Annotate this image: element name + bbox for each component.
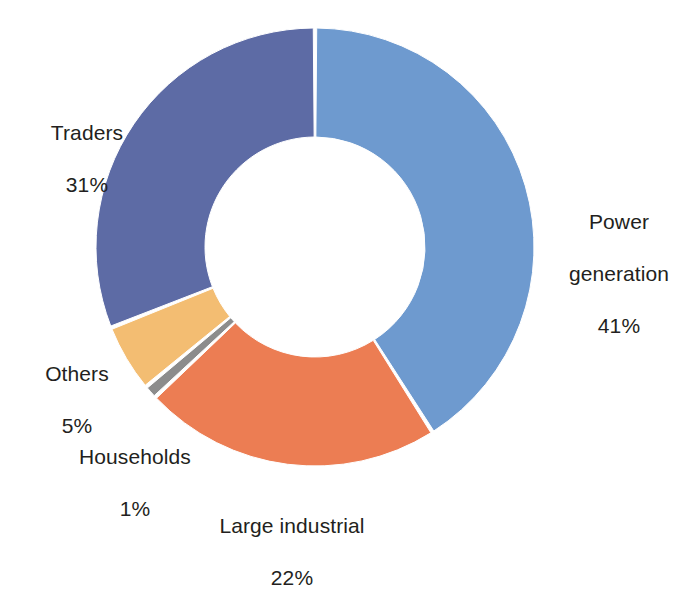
donut-slices-group	[96, 28, 534, 466]
slice-label-large-industrial: Large industrial 22%	[186, 487, 398, 589]
slice-label-traders-name: Traders	[22, 120, 152, 146]
slice-label-traders: Traders 31%	[22, 94, 152, 224]
slice-label-households-name: Households	[52, 444, 218, 470]
slice-label-traders-value: 31%	[22, 172, 152, 198]
slice-label-large-industrial-value: 22%	[186, 565, 398, 589]
slice-label-power-generation: Power generation 41%	[548, 183, 690, 365]
slice-label-others-name: Others	[18, 361, 136, 387]
slice-label-power-generation-value: 41%	[548, 313, 690, 339]
slice-label-large-industrial-name: Large industrial	[186, 513, 398, 539]
slice-label-power-generation-line1: Power	[548, 209, 690, 235]
slice-label-power-generation-line2: generation	[548, 261, 690, 287]
